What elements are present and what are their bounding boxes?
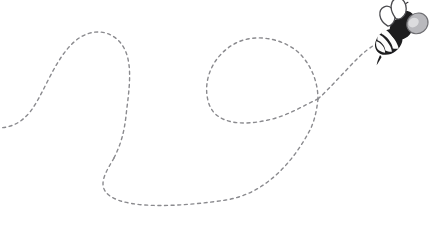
bee-flight-illustration [0, 0, 447, 228]
canvas-background [0, 0, 447, 228]
illustration-canvas: Bumble bee with dashed flight path A car… [0, 0, 447, 228]
